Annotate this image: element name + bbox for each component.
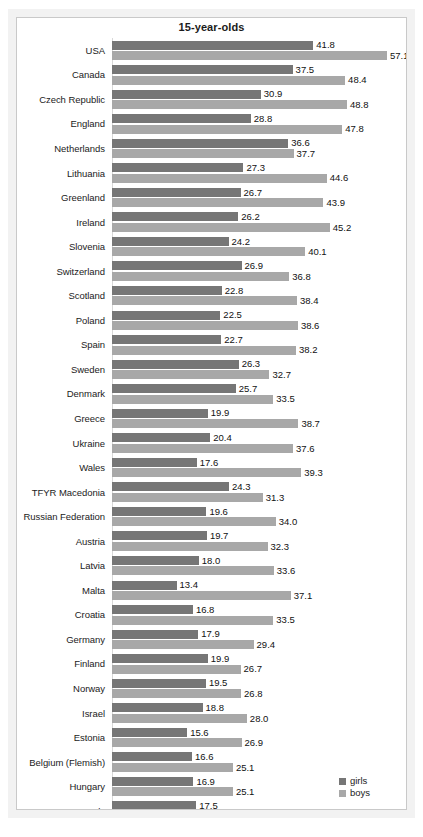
chart-plot-area: USA41.857.1Canada37.548.4Czech Republic3…: [17, 38, 406, 809]
row-bars: 19.732.3: [112, 529, 406, 554]
bar-rows: USA41.857.1Canada37.548.4Czech Republic3…: [17, 38, 406, 810]
bar-value-label-boys: 40.1: [308, 247, 327, 257]
category-label: Czech Republic: [17, 87, 105, 112]
bar-value-label-girls: 17.9: [201, 629, 220, 639]
bar-group-girls: 19.5: [112, 679, 227, 688]
bar-value-label-girls: 16.9: [196, 777, 215, 787]
bar-value-label-girls: 26.7: [244, 188, 263, 198]
bar-value-label-girls: 27.3: [246, 163, 265, 173]
bar-girls: [112, 212, 238, 221]
bar-value-label-boys: 32.3: [271, 542, 290, 552]
row-bars: 19.926.7: [112, 652, 406, 677]
bar-boys: [112, 493, 263, 502]
bar-group-boys: 47.8: [112, 125, 364, 134]
bar-value-label-girls: 26.9: [245, 261, 264, 271]
bar-group-boys: 36.8: [112, 272, 311, 281]
bar-group-boys: 38.2: [112, 346, 317, 355]
chart-row: Spain22.738.2: [17, 333, 406, 358]
row-bars: 36.637.7: [112, 136, 406, 161]
row-bars: 24.331.3: [112, 480, 406, 505]
row-bars: 22.538.6: [112, 308, 406, 333]
category-label: Norway: [17, 676, 105, 701]
chart-row: Czech Republic30.948.8: [17, 87, 406, 112]
bar-group-boys: 26.7: [112, 665, 262, 674]
row-bars: 17.639.3: [112, 455, 406, 480]
bar-girls: [112, 433, 210, 442]
bar-group-boys: 48.4: [112, 76, 367, 85]
bar-value-label-girls: 26.3: [242, 359, 261, 369]
row-bars: 24.240.1: [112, 234, 406, 259]
row-bars: 19.634.0: [112, 504, 406, 529]
row-bars: 16.833.5: [112, 603, 406, 628]
bar-boys: [112, 542, 268, 551]
category-label: Italy: [17, 799, 105, 810]
legend-swatch-girls-icon: [339, 778, 346, 785]
chart-row: Poland22.538.6: [17, 308, 406, 333]
bar-girls: [112, 752, 192, 761]
bar-group-boys: 33.5: [112, 395, 295, 404]
chart-row: Israel18.828.0: [17, 701, 406, 726]
category-label: Ireland: [17, 210, 105, 235]
bar-group-boys: 37.6: [112, 444, 315, 453]
row-bars: 26.245.2: [112, 210, 406, 235]
category-label: Estonia: [17, 725, 105, 750]
bar-boys: [112, 223, 330, 232]
bar-group-girls: 22.7: [112, 335, 243, 344]
bar-group-boys: 38.7: [112, 419, 320, 428]
bar-value-label-girls: 16.6: [195, 752, 214, 762]
bar-value-label-girls: 41.8: [316, 40, 335, 50]
bar-boys: [112, 787, 233, 796]
bar-boys: [112, 468, 301, 477]
bar-value-label-boys: 45.2: [333, 223, 352, 233]
bar-group-girls: 19.7: [112, 531, 228, 540]
category-label: Latvia: [17, 553, 105, 578]
row-bars: 19.526.8: [112, 676, 406, 701]
row-bars: 37.548.4: [112, 63, 406, 88]
bar-value-label-girls: 24.3: [232, 482, 251, 492]
row-bars: 16.625.1: [112, 750, 406, 775]
bar-group-boys: 45.2: [112, 223, 351, 232]
bar-girls: [112, 728, 187, 737]
bar-value-label-boys: 37.1: [294, 591, 313, 601]
bar-group-boys: 48.8: [112, 100, 369, 109]
bar-girls: [112, 556, 199, 565]
category-label: Greenland: [17, 185, 105, 210]
bar-value-label-boys: 32.7: [272, 370, 291, 380]
bar-boys: [112, 395, 273, 404]
category-label: Switzerland: [17, 259, 105, 284]
bar-boys: [112, 616, 273, 625]
chart-row: Greenland26.743.9: [17, 185, 406, 210]
bar-girls: [112, 65, 293, 74]
chart-frame: 15-year-olds USA41.857.1Canada37.548.4Cz…: [8, 9, 415, 818]
bar-value-label-boys: 31.3: [266, 493, 285, 503]
bar-boys: [112, 76, 345, 85]
bar-value-label-boys: 38.6: [301, 321, 320, 331]
row-bars: 22.838.4: [112, 283, 406, 308]
category-label: Israel: [17, 701, 105, 726]
row-bars: 18.828.0: [112, 701, 406, 726]
bar-value-label-boys: 36.8: [292, 272, 311, 282]
category-label: Malta: [17, 578, 105, 603]
bar-group-boys: 38.4: [112, 296, 318, 305]
bar-value-label-girls: 15.6: [190, 728, 209, 738]
figure-caption: [8, 831, 415, 837]
bar-group-girls: 19.6: [112, 507, 228, 516]
row-bars: 15.626.9: [112, 725, 406, 750]
bar-group-boys: 32.7: [112, 370, 291, 379]
bar-value-label-boys: 33.5: [276, 394, 295, 404]
chart-row: Russian Federation19.634.0: [17, 504, 406, 529]
bar-value-label-boys: 37.6: [296, 444, 315, 454]
legend-item-boys: boys: [339, 787, 370, 799]
category-label: Canada: [17, 63, 105, 88]
bar-group-girls: 24.3: [112, 482, 251, 491]
bar-girls: [112, 90, 261, 99]
category-label: Greece: [17, 406, 105, 431]
bar-group-girls: 18.0: [112, 556, 220, 565]
row-bars: 18.033.6: [112, 553, 406, 578]
bar-girls: [112, 605, 193, 614]
row-bars: 28.847.8: [112, 112, 406, 137]
chart-row: TFYR Macedonia24.331.3: [17, 480, 406, 505]
bar-boys: [112, 444, 293, 453]
bar-girls: [112, 188, 241, 197]
row-bars: 26.936.8: [112, 259, 406, 284]
